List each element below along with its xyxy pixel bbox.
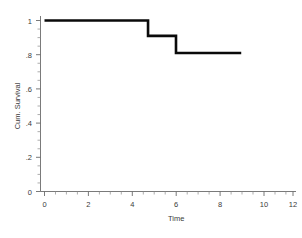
y-axis-title: Cum. Survival — [13, 82, 22, 129]
y-tick-label-0: 0 — [28, 188, 32, 197]
x-tick-label-4: 4 — [130, 200, 134, 209]
y-tick-label-0_4: .4 — [26, 119, 32, 128]
y-tick-label-0_8: .8 — [26, 51, 32, 60]
x-axis-title: Time — [168, 214, 184, 223]
x-tick-label-10: 10 — [260, 200, 268, 209]
x-tick-label-8: 8 — [218, 200, 222, 209]
x-axis-major-ticks — [45, 192, 294, 197]
survival-chart: 1 .8 .6 .4 .2 0 0 2 4 6 8 10 12 Time Cum… — [0, 0, 302, 238]
x-tick-label-6: 6 — [174, 200, 178, 209]
y-tick-label-0_2: .2 — [26, 153, 32, 162]
y-tick-label-0_6: .6 — [26, 85, 32, 94]
x-tick-label-2: 2 — [86, 200, 90, 209]
y-tick-label-1: 1 — [28, 17, 32, 26]
plot-area: 1 .8 .6 .4 .2 0 0 2 4 6 8 10 12 Time Cum… — [0, 0, 302, 238]
survival-step-curve — [45, 21, 242, 53]
x-tick-label-0: 0 — [42, 200, 46, 209]
x-tick-label-12: 12 — [289, 200, 297, 209]
